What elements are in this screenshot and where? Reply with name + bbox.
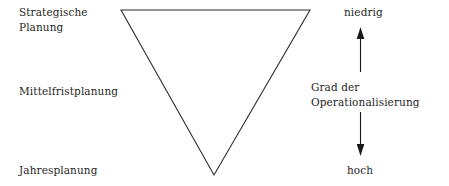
planning-triangle-figure: Strategische Planung Mittelfristplanung … [0, 0, 449, 186]
axis-caption: Grad der Operationalisierung [311, 80, 420, 110]
axis-top-label-low: niedrig [344, 5, 383, 20]
axis-bottom-label-high: hoch [347, 163, 373, 178]
down-arrow-head [357, 144, 365, 156]
up-arrow-head [357, 27, 365, 39]
